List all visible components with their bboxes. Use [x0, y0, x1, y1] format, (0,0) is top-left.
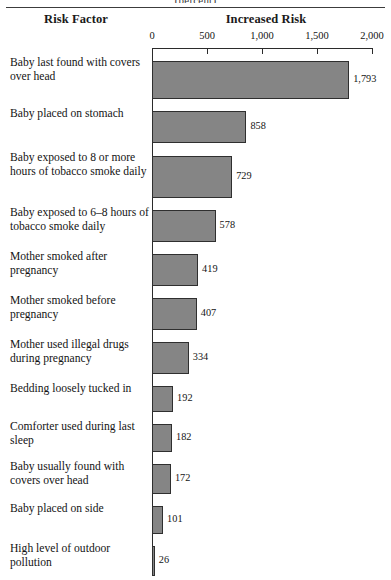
- bar-row-label: Baby usually found with covers over head: [10, 460, 150, 488]
- bar-row-label: Bedding loosely tucked in: [10, 382, 150, 396]
- bar-value-label: 172: [175, 472, 190, 483]
- bar: [152, 254, 198, 286]
- bar: [152, 464, 171, 494]
- bar-row-label: Baby last found with covers over head: [10, 56, 150, 84]
- bar-row-label: Comforter used during last sleep: [10, 420, 150, 448]
- bar-row: Mother smoked before pregnancy407: [0, 292, 391, 336]
- bar-row-label: Baby exposed to 8 or more hours of tobac…: [10, 151, 150, 179]
- bar-row: Comforter used during last sleep182: [0, 418, 391, 458]
- bar-row: Baby usually found with covers over head…: [0, 458, 391, 500]
- bar-row: Mother smoked after pregnancy419: [0, 248, 391, 292]
- bar-row-label: Baby placed on stomach: [10, 107, 150, 121]
- bar: [152, 61, 349, 99]
- bar-value-label: 182: [176, 431, 191, 442]
- bar-row: Baby last found with covers over head1,7…: [0, 54, 391, 105]
- bar: [152, 342, 189, 374]
- bar-row: Baby placed on stomach858: [0, 105, 391, 149]
- bar-row: High level of outdoor pollution26: [0, 540, 391, 580]
- bar: [152, 424, 172, 452]
- bar-row-label: High level of outdoor pollution: [10, 542, 150, 570]
- bar-value-label: 1,793: [353, 73, 376, 84]
- bar-rows: Baby last found with covers over head1,7…: [0, 54, 391, 580]
- bar-row: Baby exposed to 6–8 hours of tobacco smo…: [0, 204, 391, 248]
- bar-value-label: 101: [167, 513, 182, 524]
- bar-value-label: 729: [236, 170, 251, 181]
- bar-row: Baby exposed to 8 or more hours of tobac…: [0, 149, 391, 204]
- bar-row: Mother used illegal drugs during pregnan…: [0, 336, 391, 380]
- bar-value-label: 192: [177, 392, 192, 403]
- bar-value-label: 858: [250, 120, 265, 131]
- bar: [152, 156, 232, 198]
- x-axis-tick-label: 500: [199, 30, 215, 41]
- bar-value-label: 407: [201, 307, 216, 318]
- bar: [152, 386, 173, 412]
- bar-row: Bedding loosely tucked in192: [0, 380, 391, 418]
- bar-row: Baby placed on side101: [0, 500, 391, 540]
- bar: [152, 546, 155, 576]
- bar-row-label: Mother smoked after pregnancy: [10, 250, 150, 278]
- bar: [152, 506, 163, 534]
- bar-row-label: Mother used illegal drugs during pregnan…: [10, 338, 150, 366]
- bar: [152, 210, 216, 242]
- x-axis-tick-label: 2,000: [360, 30, 384, 41]
- bar-value-label: 578: [220, 219, 235, 230]
- bar-value-label: 419: [202, 263, 217, 274]
- bar-row-label: Baby placed on side: [10, 502, 150, 516]
- bar-row-label: Mother smoked before pregnancy: [10, 294, 150, 322]
- x-axis-tick-label: 1,500: [305, 30, 329, 41]
- bar: [152, 298, 197, 330]
- bar-row-label: Baby exposed to 6–8 hours of tobacco smo…: [10, 206, 150, 234]
- bar: [152, 111, 246, 143]
- bar-value-label: 26: [159, 554, 169, 565]
- x-axis-tick-label: 1,000: [250, 30, 274, 41]
- x-axis-tick-label: 0: [149, 30, 154, 41]
- bar-value-label: 334: [193, 351, 208, 362]
